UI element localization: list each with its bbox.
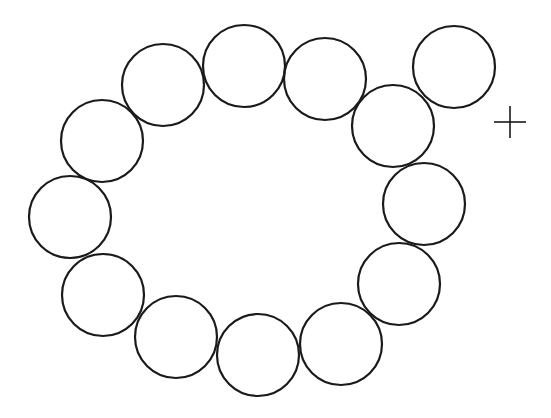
circle-10 (300, 303, 382, 385)
circle-9 (358, 243, 440, 325)
circle-6 (352, 85, 434, 167)
circle-ring (29, 25, 495, 396)
circle-1 (29, 176, 111, 258)
circle-2 (61, 100, 143, 182)
circle-12 (135, 296, 217, 378)
circle-5 (284, 38, 366, 120)
circle-4 (203, 25, 285, 107)
circle-8 (383, 163, 465, 245)
circle-11 (217, 314, 299, 396)
diagram-canvas (0, 0, 551, 418)
circle-13 (62, 254, 144, 336)
crosshair-icon[interactable] (494, 106, 526, 138)
circle-7 (413, 26, 495, 108)
circle-3 (122, 44, 204, 126)
